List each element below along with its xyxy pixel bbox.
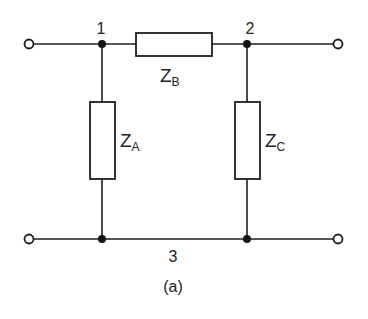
label-zb-main: Z xyxy=(160,65,172,86)
label-za-sub: A xyxy=(132,140,140,154)
junction-node-2 xyxy=(243,40,251,48)
figure-caption: (a) xyxy=(163,278,183,295)
terminal-bottom-left xyxy=(25,235,34,244)
impedance-za xyxy=(90,102,115,179)
junction-node-3-left xyxy=(98,235,106,243)
node-label-3: 3 xyxy=(169,248,178,265)
label-zc-sub: C xyxy=(277,140,286,154)
junction-node-1 xyxy=(98,40,106,48)
node-label-1: 1 xyxy=(97,20,106,37)
label-za: ZA xyxy=(120,130,140,154)
label-zc-main: Z xyxy=(265,130,277,151)
label-zc: ZC xyxy=(265,130,286,154)
impedance-zb xyxy=(136,33,212,56)
circuit-diagram: 1 2 3 ZB ZA ZC (a) xyxy=(0,0,368,319)
label-zb-sub: B xyxy=(172,75,180,89)
impedance-zc xyxy=(235,102,260,179)
label-za-main: Z xyxy=(120,130,132,151)
terminal-top-left xyxy=(25,40,34,49)
node-label-2: 2 xyxy=(246,20,255,37)
label-zb: ZB xyxy=(160,65,180,89)
terminal-bottom-right xyxy=(334,235,343,244)
junction-node-3-right xyxy=(243,235,251,243)
terminal-top-right xyxy=(334,40,343,49)
